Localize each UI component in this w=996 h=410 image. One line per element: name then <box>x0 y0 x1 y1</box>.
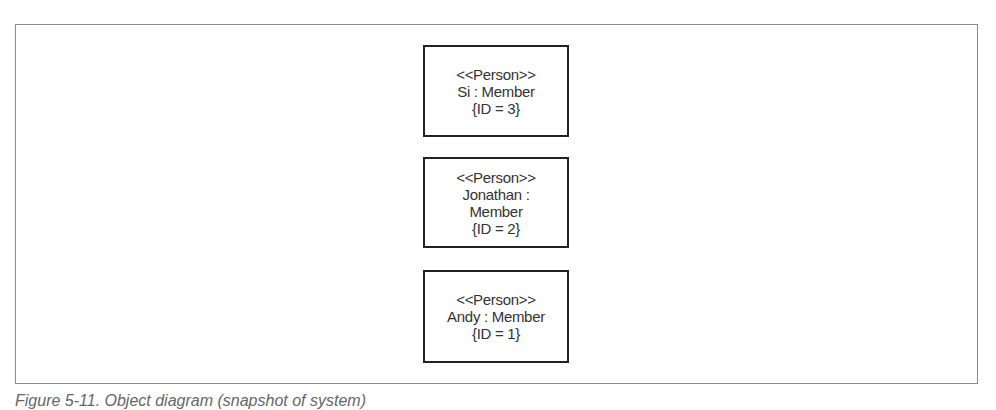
stereotype-label: <<Person>> <box>456 66 536 83</box>
stereotype-label: <<Person>> <box>456 169 536 186</box>
object-constraint: {ID = 1} <box>472 325 520 342</box>
object-name: Jonathan : <box>462 186 529 203</box>
object-box-si: <<Person>> Si : Member {ID = 3} <box>423 45 569 137</box>
object-constraint: {ID = 3} <box>472 100 520 117</box>
stereotype-label: <<Person>> <box>456 291 536 308</box>
object-constraint: {ID = 2} <box>472 220 520 237</box>
figure-caption: Figure 5-11. Object diagram (snapshot of… <box>15 392 366 410</box>
object-name: Andy : Member <box>447 308 545 325</box>
object-box-jonathan: <<Person>> Jonathan : Member {ID = 2} <box>423 157 569 248</box>
object-type: Member <box>469 203 522 220</box>
object-box-andy: <<Person>> Andy : Member {ID = 1} <box>423 270 569 363</box>
object-name: Si : Member <box>457 83 535 100</box>
